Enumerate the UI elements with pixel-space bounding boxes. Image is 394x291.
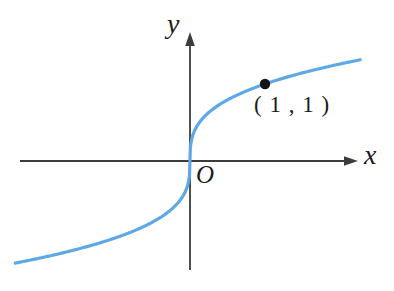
plot-canvas: [0, 0, 394, 291]
x-axis-label: x: [364, 141, 376, 169]
marked-point-dot: [260, 79, 270, 89]
x-axis-arrowhead-icon: [344, 156, 358, 166]
point-label: ( 1 , 1 ): [254, 93, 330, 116]
origin-label: O: [196, 162, 214, 187]
y-axis-label: y: [167, 10, 179, 38]
y-axis-arrowhead-icon: [185, 32, 195, 46]
cube-root-function-figure: y x O ( 1 , 1 ): [0, 0, 394, 291]
